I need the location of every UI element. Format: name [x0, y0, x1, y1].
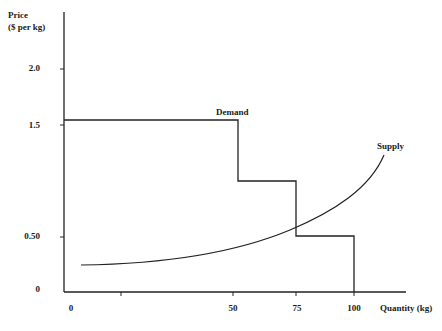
y-tick-label-1-5: 1.5: [10, 120, 40, 130]
y-tick-label-2-0: 2.0: [10, 63, 40, 73]
x-tick-label-100: 100: [339, 303, 369, 313]
y-axis-label: Price ($ per kg): [8, 9, 45, 33]
demand-curve: [64, 120, 354, 292]
supply-label: Supply: [377, 141, 404, 151]
chart-plot: [0, 0, 442, 331]
y-tick-label-0-50: 0.50: [10, 231, 40, 241]
y-tick-label-0: 0: [10, 284, 40, 294]
x-tick-label-50: 50: [218, 303, 248, 313]
supply-curve: [81, 155, 384, 265]
y-axis-label-line1: Price: [8, 9, 45, 21]
x-tick-label-75: 75: [282, 303, 312, 313]
x-tick-label-0: 0: [56, 303, 86, 313]
x-axis-label: Quantity (kg): [380, 303, 432, 313]
y-axis-label-line2: ($ per kg): [8, 21, 45, 33]
demand-label: Demand: [216, 107, 249, 117]
